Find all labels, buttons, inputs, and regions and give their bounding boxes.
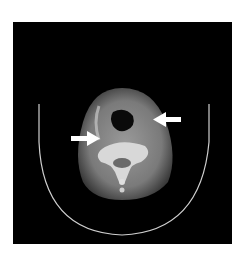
ct-scan-image xyxy=(13,22,232,244)
ct-scan-svg xyxy=(13,22,232,244)
